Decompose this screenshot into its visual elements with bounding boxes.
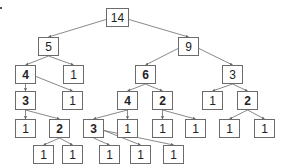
- tree-node: 4: [117, 91, 138, 110]
- tree-node: 2: [237, 91, 258, 110]
- tree-edge: [213, 84, 233, 91]
- tree-edge: [49, 20, 107, 38]
- tree-edge: [248, 110, 265, 119]
- tree-node: 1: [152, 119, 173, 138]
- tree-node: 1: [62, 145, 83, 164]
- tree-edge: [128, 84, 146, 91]
- tree-node: 1: [202, 91, 223, 110]
- tree-node: 1: [130, 145, 151, 164]
- tree-edge: [146, 84, 163, 91]
- tree-node: 1: [117, 119, 138, 138]
- tree-node: 3: [15, 91, 36, 110]
- tree-node: 9: [178, 37, 199, 56]
- tree-node: 1: [15, 119, 36, 138]
- tree-node: 2: [152, 91, 173, 110]
- tree-node: 1: [254, 119, 275, 138]
- tree-node: 1: [163, 145, 184, 164]
- tree-node: 6: [135, 65, 156, 84]
- tree-node: 1: [63, 65, 84, 84]
- tree-node: 3: [83, 119, 104, 138]
- tree-edge: [230, 110, 248, 119]
- tree-edge: [94, 110, 128, 119]
- tree-node: 2: [49, 119, 70, 138]
- tree-edge: [26, 110, 60, 119]
- tree-edge: [49, 56, 74, 65]
- tree-node: 1: [99, 145, 120, 164]
- tree-node: 4: [15, 65, 36, 84]
- tree-edge: [26, 56, 49, 65]
- tree-edge: [233, 84, 248, 91]
- tree-edge: [44, 138, 60, 145]
- tree-node: 1: [219, 119, 240, 138]
- tree-edge: [199, 49, 233, 66]
- tree-edge: [60, 138, 73, 145]
- tree-node: 1: [185, 119, 206, 138]
- tree-node: 3: [222, 65, 243, 84]
- tree-edge: [129, 20, 189, 38]
- tree-edge: [94, 138, 110, 145]
- tree-edge: [146, 49, 179, 66]
- tree-node: 1: [62, 91, 83, 110]
- tree-node: 1: [33, 145, 54, 164]
- tree-node: 14: [106, 8, 129, 27]
- tree-edge: [163, 110, 196, 119]
- tree-node: 5: [38, 37, 59, 56]
